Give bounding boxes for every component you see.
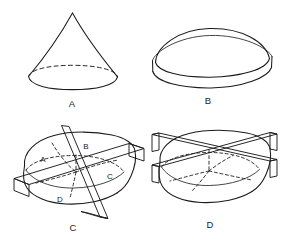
horizontal-plane-right-tab-c bbox=[129, 144, 144, 162]
crossing-plane-2-right-tab-d bbox=[270, 133, 277, 151]
panel-c-region-label-d: D bbox=[57, 195, 63, 204]
crossing-plane-2-left-tab-d bbox=[152, 165, 159, 183]
dome-cap-outline bbox=[156, 28, 270, 62]
panel-d-blob-crossed: D bbox=[152, 130, 277, 229]
panel-c-region-label-a: A bbox=[40, 155, 46, 164]
blob-c-hidden-cut-3 bbox=[70, 172, 76, 198]
panel-a-caption: A bbox=[69, 98, 76, 109]
panel-d-caption: D bbox=[207, 219, 214, 230]
crossing-plane-1-right-tab-d bbox=[270, 160, 277, 178]
blob-d-hidden-cut-4 bbox=[209, 156, 233, 172]
panel-c-region-label-c: C bbox=[107, 172, 113, 181]
panel-c-caption: C bbox=[70, 222, 77, 233]
blob-d-hidden-cut-3 bbox=[191, 171, 209, 192]
cone-base-rear-arc bbox=[29, 65, 118, 77]
cone-base-front-arc bbox=[29, 77, 118, 90]
blob-d-bottom-profile bbox=[159, 162, 252, 203]
dome-rim-front-edge bbox=[156, 59, 270, 78]
panel-c-blob-sectioned: A B C D C bbox=[14, 126, 144, 233]
panel-a-cone: A bbox=[29, 13, 118, 109]
cone-right-slant bbox=[73, 13, 118, 77]
panel-b-caption: B bbox=[205, 95, 211, 106]
blob-d-hidden-cut-1 bbox=[170, 171, 209, 181]
crossing-plane-1-left-tab-d bbox=[152, 133, 159, 152]
figure-container: A B bbox=[0, 0, 285, 243]
panel-b-dome: B bbox=[153, 28, 273, 105]
dome-band-right-wall bbox=[272, 57, 273, 68]
geometric-solids-figure: A B bbox=[0, 0, 285, 243]
panel-c-region-label-b: B bbox=[83, 142, 88, 151]
